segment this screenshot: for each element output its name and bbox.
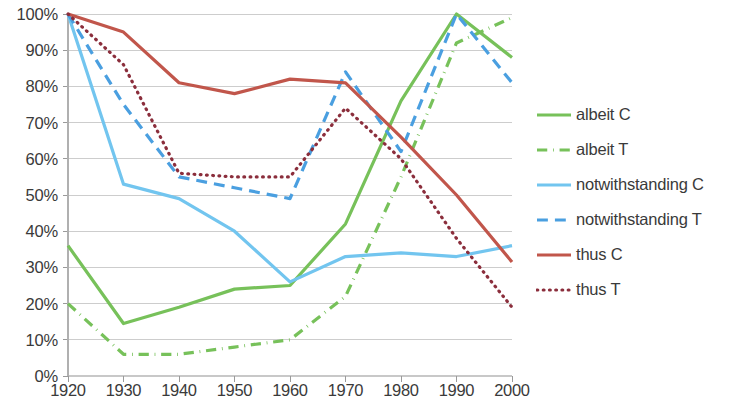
legend-item-albeit-c[interactable]: albeit C (536, 97, 731, 132)
line-chart: 0%10%20%30%40%50%60%70%80%90%100% 192019… (0, 0, 731, 410)
x-axis-tick-label: 2000 (494, 381, 530, 400)
x-axis-tick-label: 1970 (328, 381, 364, 400)
legend-label: thus T (576, 280, 620, 299)
legend-item-notwithstanding-t[interactable]: notwithstanding T (536, 202, 731, 237)
x-axis-tick-label: 1990 (439, 381, 475, 400)
legend-swatch-icon (536, 143, 572, 157)
legend-swatch-icon (536, 283, 572, 297)
x-axis-tick-label: 1980 (383, 381, 419, 400)
x-axis-tick-label: 1960 (272, 381, 308, 400)
legend-swatch-icon (536, 108, 572, 122)
legend-swatch-icon (536, 178, 572, 192)
x-axis-tick-label: 1940 (161, 381, 197, 400)
legend-swatch-icon (536, 213, 572, 227)
legend-item-albeit-t[interactable]: albeit T (536, 132, 731, 167)
legend-label: notwithstanding T (576, 210, 702, 229)
legend-label: thus C (576, 245, 623, 264)
x-axis-tick-label: 1920 (50, 381, 86, 400)
legend-item-notwithstanding-c[interactable]: notwithstanding C (536, 167, 731, 202)
legend-label: albeit C (576, 105, 630, 124)
legend-swatch-icon (536, 248, 572, 262)
x-axis-tick-label: 1930 (106, 381, 142, 400)
chart-legend: albeit Calbeit Tnotwithstanding Cnotwith… (536, 97, 731, 307)
x-axis-tick-label: 1950 (217, 381, 253, 400)
legend-item-thus-t[interactable]: thus T (536, 272, 731, 307)
legend-label: albeit T (576, 140, 628, 159)
legend-item-thus-c[interactable]: thus C (536, 237, 731, 272)
legend-label: notwithstanding C (576, 175, 704, 194)
